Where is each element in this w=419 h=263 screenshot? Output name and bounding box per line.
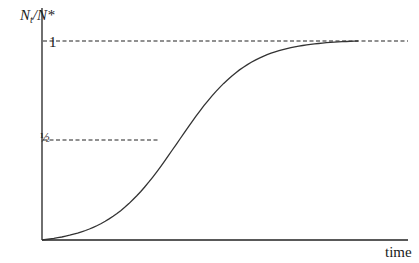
x-axis-label: time: [385, 245, 412, 260]
y-tick-one: 1: [49, 35, 57, 50]
chart-canvas: [0, 0, 419, 263]
y-axis-label: Nt/N*: [20, 8, 54, 25]
y-tick-half: ½: [40, 131, 50, 144]
